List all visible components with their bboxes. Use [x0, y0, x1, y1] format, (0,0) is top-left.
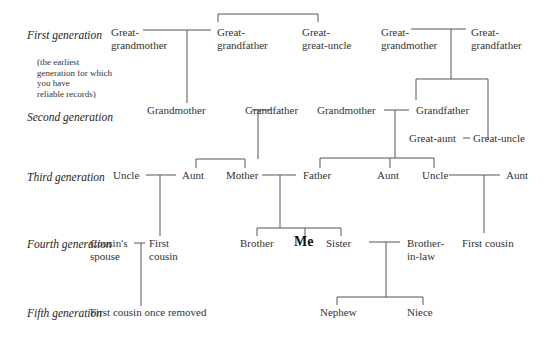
node-cousins-spouse: Cousin's spouse: [90, 237, 127, 263]
node-father: Father: [303, 169, 331, 182]
node-uncle-right: Uncle: [422, 169, 448, 182]
node-me: Me: [294, 235, 313, 248]
node-aunt-middle: Aunt: [377, 169, 399, 182]
generation-label-first: First generation: [27, 28, 102, 42]
node-brother-in-law: Brother- in-law: [407, 237, 444, 263]
node-great-uncle: Great-uncle: [473, 132, 525, 145]
generation-label-second: Second generation: [27, 110, 113, 124]
node-great-aunt: Great-aunt: [409, 132, 456, 145]
node-sister: Sister: [326, 237, 351, 250]
node-first-cousin-left: First cousin: [149, 237, 178, 263]
node-great-grandmother-left: Great- grandmother: [111, 26, 167, 52]
node-grandmother-left: Grandmother: [147, 104, 206, 117]
node-mother: Mother: [226, 169, 258, 182]
node-brother: Brother: [240, 237, 274, 250]
node-first-cousin-right: First cousin: [462, 237, 514, 250]
node-first-cousin-once-removed: First cousin once removed: [90, 306, 206, 319]
node-great-grandfather-right: Great- grandfather: [471, 26, 522, 52]
node-grandmother-right: Grandmother: [317, 104, 376, 117]
node-grandfather-right: Grandfather: [416, 104, 469, 117]
node-nephew: Nephew: [320, 306, 357, 319]
node-aunt-right: Aunt: [506, 169, 528, 182]
node-great-great-uncle: Great- great-uncle: [302, 26, 351, 52]
family-tree-diagram: First generation (the earliest generatio…: [0, 0, 556, 348]
generation-label-third: Third generation: [27, 170, 105, 184]
generation-note-first: (the earliest generation for which you h…: [37, 57, 112, 99]
node-aunt-left: Aunt: [182, 169, 204, 182]
node-niece: Niece: [407, 306, 433, 319]
node-uncle-left: Uncle: [113, 169, 139, 182]
node-great-grandmother-right: Great- grandmother: [381, 26, 437, 52]
node-great-grandfather-left: Great- grandfather: [217, 26, 268, 52]
node-grandfather-left: Grandfather: [245, 104, 298, 117]
